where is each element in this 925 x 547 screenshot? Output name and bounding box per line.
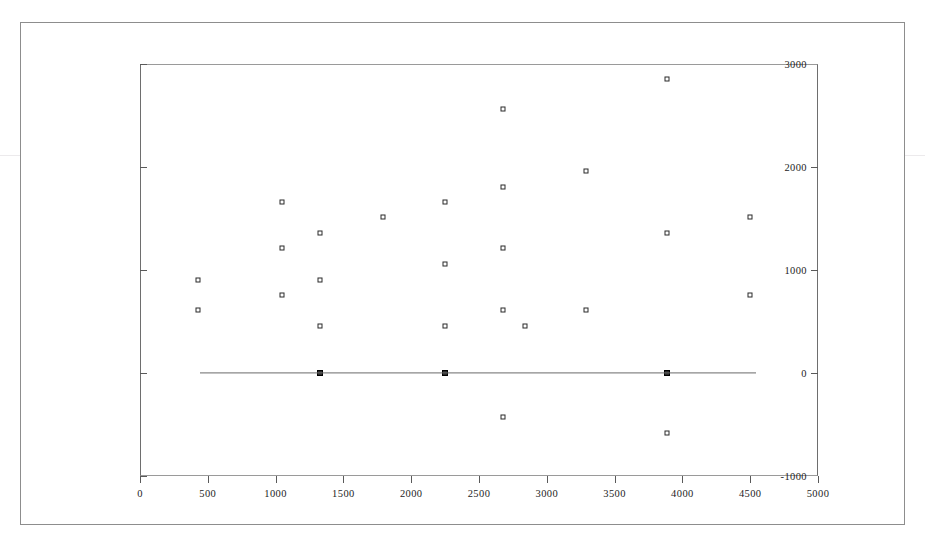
- y-tick-mark-right: [811, 167, 818, 168]
- x-tick-label: 2500: [468, 488, 491, 499]
- y-tick-mark: [140, 64, 147, 65]
- x-tick-label: 3000: [535, 488, 558, 499]
- x-tick-label: 500: [199, 488, 216, 499]
- y-tick-mark-right: [811, 373, 818, 374]
- x-tick-mark: [208, 476, 209, 483]
- x-tick-mark: [276, 476, 277, 483]
- y-tick-mark: [140, 167, 147, 168]
- x-tick-mark: [750, 476, 751, 483]
- figure-page: 0500100015002000250030003500400045005000…: [0, 0, 925, 547]
- x-tick-mark: [682, 476, 683, 483]
- x-tick-mark: [411, 476, 412, 483]
- x-tick-label: 5000: [807, 488, 830, 499]
- y-tick-label: -1000: [781, 471, 808, 482]
- y-tick-label: 1000: [784, 265, 807, 276]
- x-tick-mark: [818, 476, 819, 483]
- y-tick-mark: [140, 476, 147, 477]
- y-tick-label: 2000: [784, 162, 807, 173]
- y-tick-label: 0: [801, 368, 807, 379]
- x-tick-mark: [140, 476, 141, 483]
- x-tick-label: 4000: [671, 488, 694, 499]
- x-tick-label: 1500: [332, 488, 355, 499]
- y-tick-mark: [140, 270, 147, 271]
- x-tick-label: 4500: [739, 488, 762, 499]
- x-tick-mark: [343, 476, 344, 483]
- x-tick-mark: [615, 476, 616, 483]
- x-tick-label: 1000: [264, 488, 287, 499]
- y-tick-label: 3000: [784, 59, 807, 70]
- y-tick-mark-right: [811, 270, 818, 271]
- x-tick-label: 0: [137, 488, 143, 499]
- y-tick-mark: [140, 373, 147, 374]
- y-axis-ticks: -10000100020003000: [140, 64, 818, 476]
- x-tick-mark: [547, 476, 548, 483]
- x-tick-label: 3500: [603, 488, 626, 499]
- x-tick-label: 2000: [400, 488, 423, 499]
- scatter-plot-area: 0500100015002000250030003500400045005000…: [140, 64, 818, 476]
- x-tick-mark: [479, 476, 480, 483]
